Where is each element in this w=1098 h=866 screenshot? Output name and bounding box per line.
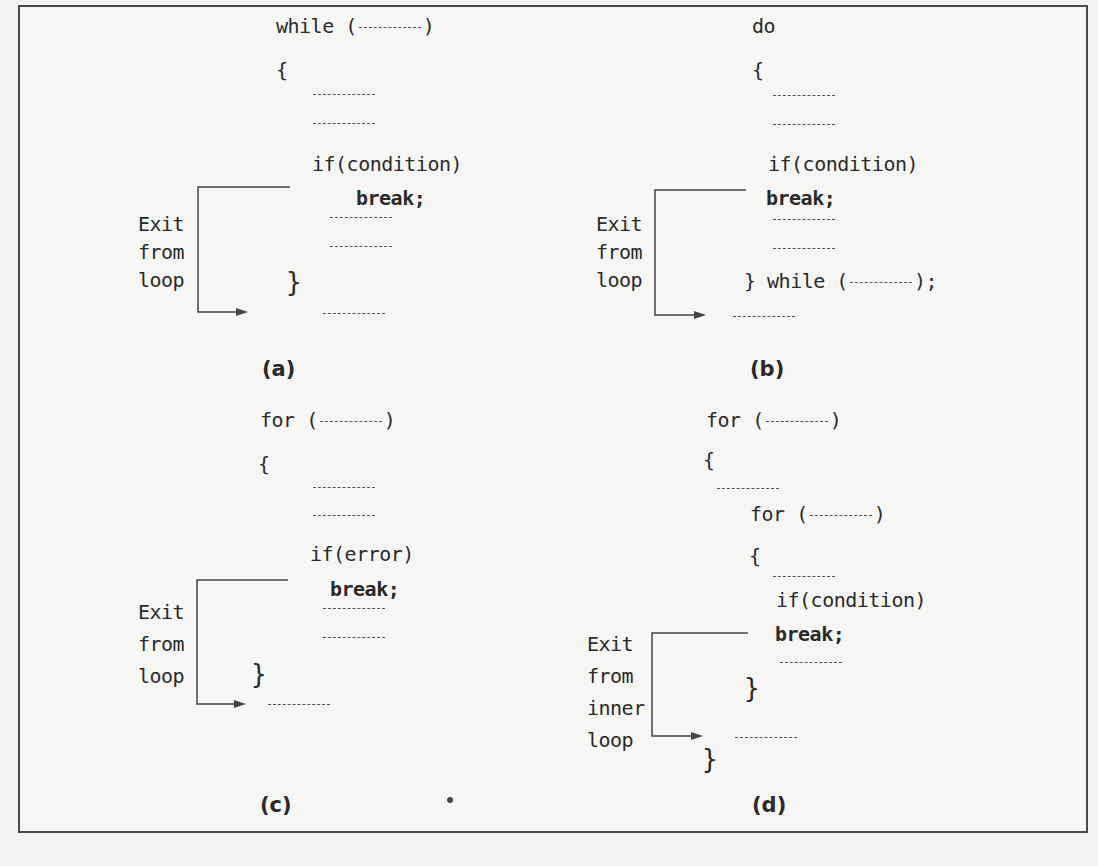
caption-d: (d) (752, 793, 786, 817)
exit-arrow-icon (0, 0, 1098, 866)
